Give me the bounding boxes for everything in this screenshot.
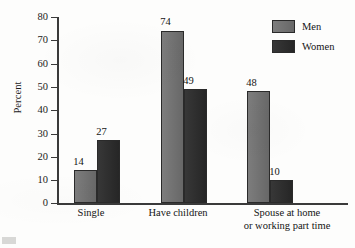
bar-value-single-men: 14 [62, 156, 95, 167]
bar-single-women[interactable] [97, 140, 120, 203]
bar-spouse-men[interactable] [247, 91, 270, 203]
bar-value-spouse-women: 10 [258, 166, 291, 177]
y-axis-title: Percent [12, 68, 23, 128]
y-tick-label-30: 30 [22, 129, 48, 139]
y-tick-label-0: 0 [22, 198, 48, 208]
y-tick-label-40: 40 [22, 105, 48, 115]
legend-item-women[interactable]: Women [272, 37, 334, 55]
bar-spouse-women[interactable] [270, 180, 293, 203]
bar-value-have-children-women: 49 [172, 75, 205, 86]
men-color-swatch-icon [272, 20, 295, 33]
bar-chart: Percent 80 70 60 50 40 30 20 10 0 14 27 … [0, 0, 355, 248]
bar-value-single-women: 27 [85, 126, 118, 137]
y-tick-label-80: 80 [22, 12, 48, 22]
category-label-spouse: Spouse at home or working part time [224, 207, 350, 232]
y-tick-label-70: 70 [22, 35, 48, 45]
y-tick-label-20: 20 [22, 152, 48, 162]
legend-label-men: Men [302, 21, 321, 32]
category-label-spouse-line2: or working part time [224, 220, 350, 233]
category-label-single: Single [58, 207, 124, 220]
bar-have-children-women[interactable] [184, 89, 207, 203]
y-tick-label-50: 50 [22, 82, 48, 92]
category-label-spouse-line1: Spouse at home [224, 207, 350, 220]
legend-item-men[interactable]: Men [272, 17, 334, 35]
y-tick-0 [51, 203, 57, 204]
women-color-swatch-icon [272, 40, 295, 53]
x-axis-line [57, 203, 348, 205]
bar-single-men[interactable] [74, 170, 97, 203]
bar-value-spouse-men: 48 [235, 77, 268, 88]
legend-label-women: Women [302, 41, 334, 52]
y-tick-label-10: 10 [22, 175, 48, 185]
legend: Men Women [272, 17, 334, 57]
scan-edge-artifact [2, 237, 16, 244]
category-label-have-children: Have children [128, 207, 228, 220]
bar-value-have-children-men: 74 [149, 16, 182, 27]
bar-have-children-men[interactable] [161, 31, 184, 203]
y-tick-label-60: 60 [22, 59, 48, 69]
